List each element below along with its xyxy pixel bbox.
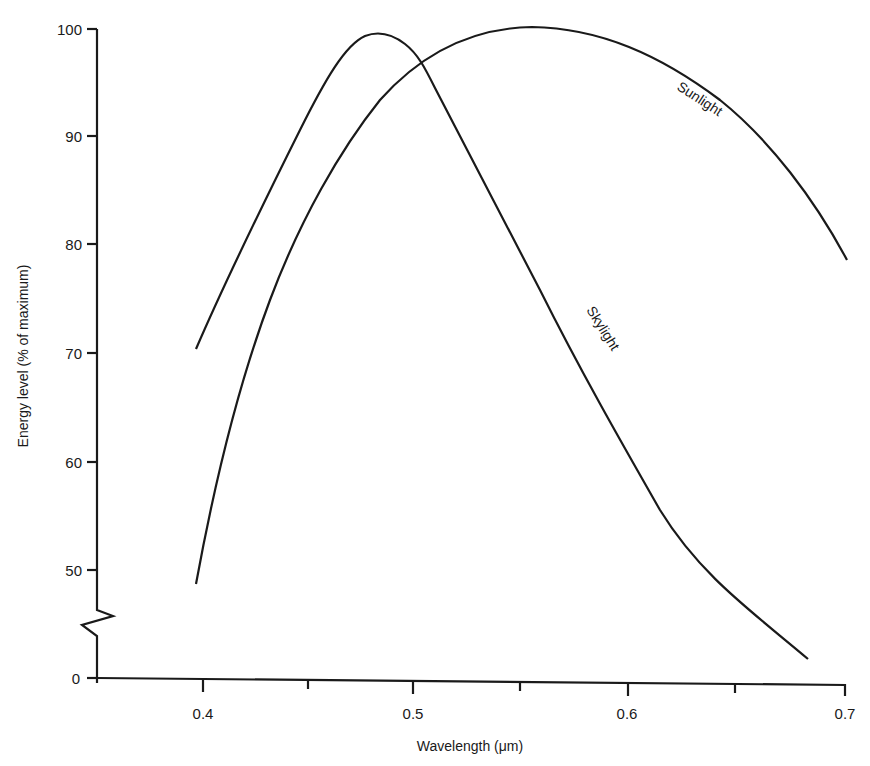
y-tick-90: 90 (65, 128, 82, 145)
y-tick-80: 80 (65, 236, 82, 253)
x-tick-0.6: 0.6 (617, 705, 638, 722)
skylight-curve (196, 34, 808, 659)
y-tick-0: 0 (72, 670, 80, 687)
energy-spectrum-chart: 100 90 80 70 60 50 0 0.4 0.5 0.6 0.7 Wav… (0, 0, 870, 766)
x-tick-0.5: 0.5 (403, 705, 424, 722)
x-tick-0.7: 0.7 (835, 705, 856, 722)
x-axis-title: Wavelength (μm) (417, 738, 523, 754)
y-tick-70: 70 (65, 345, 82, 362)
x-tick-0.4: 0.4 (193, 705, 214, 722)
y-tick-50: 50 (65, 562, 82, 579)
y-axis (82, 29, 113, 683)
skylight-label: Skylight (583, 303, 623, 353)
y-axis-title: Energy level (% of maximum) (15, 265, 31, 448)
y-tick-100: 100 (57, 21, 82, 38)
y-tick-labels: 100 90 80 70 60 50 0 (57, 21, 82, 687)
x-axis (97, 678, 845, 696)
sunlight-curve (196, 27, 847, 584)
y-tick-60: 60 (65, 454, 82, 471)
x-tick-labels: 0.4 0.5 0.6 0.7 (193, 705, 856, 722)
